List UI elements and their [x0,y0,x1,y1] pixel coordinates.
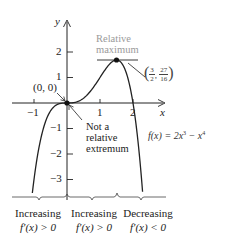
not-extremum-arrow [70,106,83,121]
function-label: f(x) = 2x3 − x4 [148,130,205,141]
interval-2-label: Increasing [70,208,118,219]
interval-2-derivative: f′(x) > 0 [72,222,116,233]
y-tick-label-neg1: −1 [50,122,62,133]
x-tick-label-2: 2 [130,107,136,118]
x-tick-label-neg1: −1 [27,107,39,118]
relative-maximum-point [114,57,119,62]
function-graph-diagram: y x −1 1 2 2 1 −1 −2 −3 (0, 0) Relative … [0,0,226,242]
y-tick-label-neg2: −2 [50,148,62,159]
y-axis-label: y [55,16,60,27]
interval-3-derivative: f′(x) < 0 [126,222,170,233]
origin-label: (0, 0) [33,82,57,93]
not-extremum-line1: Not a [86,122,109,133]
max-point-label: (32, 2716) [144,65,174,83]
relative-max-text-line1: Relative [96,34,131,45]
interval-1-derivative: f′(x) > 0 [16,222,60,233]
relative-max-text-line2: maximum [96,45,139,56]
x-axis-label: x [160,107,165,118]
paren-close: ) [168,64,173,81]
origin-label-arrow [57,93,65,101]
interval-braces [12,193,166,200]
not-extremum-line2: relative [86,133,117,144]
interval-1-label: Increasing [14,208,62,219]
max-label-arrow [128,63,145,77]
fraction-y: 2716 [159,66,168,83]
interval-3-label: Decreasing [122,208,174,219]
y-tick-label-neg3: −3 [50,173,62,184]
x-tick-label-1: 1 [97,107,103,118]
not-extremum-line3: extremum [86,144,129,155]
y-tick-label-2: 2 [56,46,62,57]
